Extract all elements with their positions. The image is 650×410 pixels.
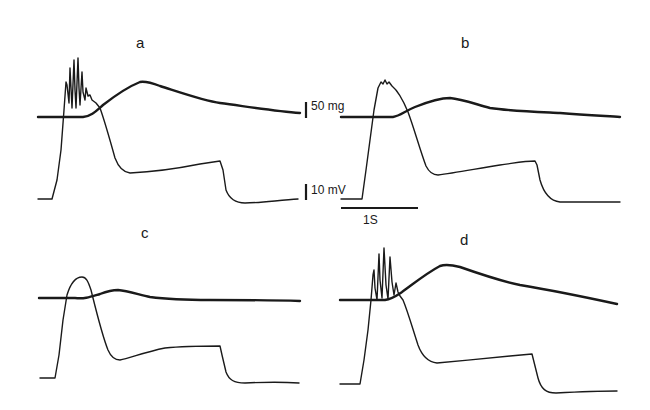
figure: a 50 mg 10 mV b 1S c d	[0, 0, 650, 410]
tension-trace-b	[341, 98, 620, 117]
panel-b: b 1S	[341, 34, 620, 227]
time-scale-label: 1S	[363, 213, 378, 227]
action-potential-trace-c	[40, 277, 299, 383]
panel-c: c	[39, 224, 300, 383]
panel-d: d	[340, 231, 617, 393]
panel-label-a: a	[136, 34, 145, 51]
panel-a: a 50 mg 10 mV	[38, 34, 346, 203]
tension-trace-c	[39, 290, 300, 301]
panel-label-b: b	[461, 34, 469, 51]
panel-label-d: d	[460, 231, 468, 248]
tension-scale-label: 50 mg	[311, 99, 344, 113]
voltage-scale-label: 10 mV	[311, 183, 346, 197]
panel-label-c: c	[141, 224, 149, 241]
action-potential-trace-b	[341, 80, 620, 202]
action-potential-trace-a	[38, 58, 298, 203]
action-potential-trace-d	[340, 248, 617, 393]
